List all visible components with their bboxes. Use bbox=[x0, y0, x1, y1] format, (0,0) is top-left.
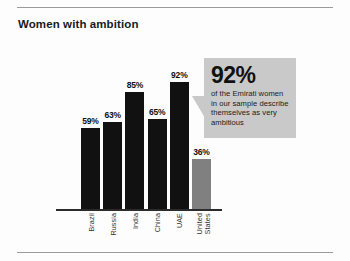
bar-group: 92%UAE bbox=[170, 0, 189, 209]
bar-group: 65%China bbox=[148, 0, 167, 209]
bar-value-label: 36% bbox=[193, 147, 209, 157]
callout-headline: 92% bbox=[211, 63, 289, 87]
category-label: Brazil bbox=[86, 213, 95, 232]
bar-group: 85%India bbox=[125, 0, 144, 209]
bar-value-label: 92% bbox=[171, 70, 187, 80]
bar bbox=[170, 82, 189, 209]
x-axis-line bbox=[56, 209, 222, 211]
plot-area: 59%Brazil63%Russia85%India65%China92%UAE… bbox=[0, 0, 350, 261]
callout-box: 92% of the Emirati women in our sample d… bbox=[204, 58, 296, 138]
bar bbox=[192, 159, 211, 209]
bar-value-label: 63% bbox=[104, 110, 120, 120]
bar-value-label: 59% bbox=[82, 116, 98, 126]
bar-group: 59%Brazil bbox=[81, 0, 100, 209]
callout-body-text: of the Emirati women in our sample descr… bbox=[211, 89, 289, 127]
category-label: UAE bbox=[175, 213, 184, 228]
bar-group: 63%Russia bbox=[103, 0, 122, 209]
category-label: India bbox=[130, 213, 139, 229]
category-label: China bbox=[153, 213, 162, 232]
bar bbox=[148, 119, 167, 209]
chart-figure: Women with ambition 59%Brazil63%Russia85… bbox=[0, 0, 350, 261]
bar-value-label: 85% bbox=[127, 80, 143, 90]
category-label: UnitedStates bbox=[196, 213, 212, 234]
bar bbox=[125, 92, 144, 209]
category-label: Russia bbox=[108, 213, 117, 236]
category-label-line: States bbox=[204, 213, 212, 234]
bar bbox=[103, 122, 122, 209]
bar bbox=[81, 128, 100, 209]
bar-value-label: 65% bbox=[149, 107, 165, 117]
